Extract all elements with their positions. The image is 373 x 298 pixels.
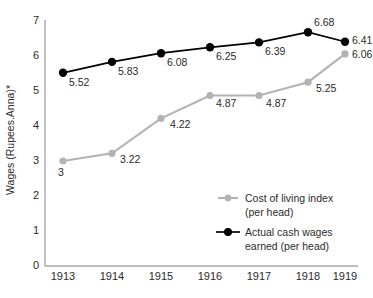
value-label-black-1913: 5.52 xyxy=(69,76,90,88)
legend-item-cost-of-living[interactable]: Cost of living index (per head) xyxy=(218,192,334,218)
chart-canvas: Wages (Rupees.Anna)* 7 6 5 4 3 2 1 0 191… xyxy=(0,0,373,298)
x-tick-label-1913: 1913 xyxy=(51,270,75,282)
data-point-black-1913 xyxy=(59,69,67,77)
value-label-black-1916: 6.25 xyxy=(216,50,237,62)
x-tick-label-1917: 1917 xyxy=(247,270,271,282)
value-label-gray-1915: 4.22 xyxy=(170,118,191,130)
legend-label-cost-of-living-line2: (per head) xyxy=(245,206,293,218)
data-point-gray-1915 xyxy=(157,115,164,122)
legend-label-actual-cash-wages-line2: earned (per head) xyxy=(245,240,329,252)
series-line-actual-cash-wages xyxy=(63,32,345,73)
value-label-gray-1919: 6.06 xyxy=(352,48,373,60)
legend-label-actual-cash-wages-line1: Actual cash wages xyxy=(245,226,333,238)
legend-swatch-marker-black xyxy=(224,228,232,236)
data-point-gray-1918 xyxy=(304,79,311,86)
legend-swatch-marker-gray xyxy=(225,195,232,202)
series-line-cost-of-living xyxy=(63,54,345,161)
x-tick-label-1919: 1919 xyxy=(333,270,357,282)
data-point-black-1914 xyxy=(108,58,116,66)
value-label-gray-1914: 3.22 xyxy=(120,153,141,165)
data-point-black-1915 xyxy=(157,49,165,57)
data-point-black-1917 xyxy=(255,38,263,46)
legend-item-actual-cash-wages[interactable]: Actual cash wages earned (per head) xyxy=(216,226,333,252)
value-label-black-1914: 5.83 xyxy=(118,65,139,77)
value-label-black-1918: 6.68 xyxy=(314,16,335,28)
value-label-gray-1917: 4.87 xyxy=(266,97,287,109)
y-tick-label-5: 5 xyxy=(33,84,39,96)
data-point-gray-1919 xyxy=(341,50,348,57)
y-tick-label-3: 3 xyxy=(33,154,39,166)
y-tick-label-1: 1 xyxy=(33,224,39,236)
data-point-gray-1916 xyxy=(206,92,213,99)
y-tick-label-7: 7 xyxy=(33,14,39,26)
x-tick-label-1916: 1916 xyxy=(198,270,222,282)
value-label-gray-1916: 4.87 xyxy=(216,97,237,109)
value-label-black-1919: 6.41 xyxy=(352,34,373,46)
value-label-black-1917: 6.39 xyxy=(265,45,286,57)
y-tick-label-6: 6 xyxy=(33,49,39,61)
x-tick-label-1915: 1915 xyxy=(149,270,173,282)
y-axis-title: Wages (Rupees.Anna)* xyxy=(4,85,16,195)
data-point-gray-1917 xyxy=(255,92,262,99)
data-point-black-1918 xyxy=(304,28,312,36)
legend-label-cost-of-living-line1: Cost of living index xyxy=(245,192,334,204)
x-tick-label-1918: 1918 xyxy=(296,270,320,282)
y-tick-label-4: 4 xyxy=(33,119,39,131)
line-chart: Wages (Rupees.Anna)* 7 6 5 4 3 2 1 0 191… xyxy=(0,0,373,298)
value-label-gray-1913: 3 xyxy=(58,166,64,178)
data-point-gray-1914 xyxy=(108,150,115,157)
data-point-black-1919 xyxy=(341,38,349,46)
data-point-gray-1913 xyxy=(59,157,66,164)
value-label-black-1915: 6.08 xyxy=(167,56,188,68)
data-point-black-1916 xyxy=(206,43,214,51)
value-label-gray-1918: 5.25 xyxy=(316,82,337,94)
y-tick-label-0: 0 xyxy=(33,259,39,271)
x-tick-label-1914: 1914 xyxy=(100,270,124,282)
y-tick-label-2: 2 xyxy=(33,189,39,201)
